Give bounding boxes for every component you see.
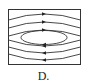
field-line-upper-2 xyxy=(9,22,81,28)
arrow-icon-upper-1 xyxy=(42,12,46,15)
field-line-upper-1 xyxy=(9,14,81,20)
arrow-icon-upper-2 xyxy=(42,20,46,23)
arrow-icon-lower-3 xyxy=(42,58,46,61)
arrow-icon-lower-2 xyxy=(42,51,46,54)
region-boundary xyxy=(9,10,81,65)
figure-label: D. xyxy=(0,69,87,83)
arrow-icon-upper-3 xyxy=(42,28,46,31)
field-line-center-ellipse xyxy=(21,31,67,45)
